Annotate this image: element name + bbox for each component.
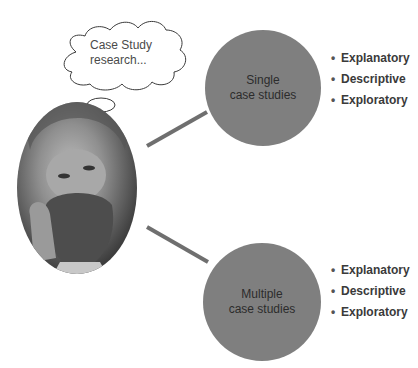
- node-multiple-line1: Multiple: [229, 287, 296, 302]
- bullet-text: Explanatory: [341, 263, 410, 277]
- thought-line-1: Case Study: [90, 38, 180, 53]
- multiple-bullet-list: •Explanatory •Descriptive •Exploratory: [331, 262, 410, 325]
- bullet-icon: •: [331, 304, 341, 320]
- portrait-image: [17, 102, 137, 280]
- thought-bubble-text: Case Study research...: [90, 38, 180, 68]
- list-item: •Exploratory: [331, 304, 410, 325]
- node-multiple-line2: case studies: [229, 302, 296, 317]
- single-bullet-list: •Explanatory •Descriptive •Exploratory: [331, 50, 410, 113]
- bullet-text: Exploratory: [341, 305, 408, 319]
- bullet-text: Exploratory: [341, 93, 408, 107]
- bullet-icon: •: [331, 262, 341, 278]
- bullet-text: Explanatory: [341, 51, 410, 65]
- connector-multiple: [147, 227, 208, 262]
- list-item: •Descriptive: [331, 71, 410, 92]
- bullet-text: Descriptive: [341, 72, 406, 86]
- bullet-icon: •: [331, 71, 341, 87]
- bullet-icon: •: [331, 92, 341, 108]
- list-item: •Descriptive: [331, 283, 410, 304]
- list-item: •Explanatory: [331, 50, 410, 71]
- node-single-line1: Single: [230, 73, 297, 88]
- node-single-case-studies: Single case studies: [205, 30, 321, 146]
- list-item: •Explanatory: [331, 262, 410, 283]
- bullet-text: Descriptive: [341, 284, 406, 298]
- list-item: •Exploratory: [331, 92, 410, 113]
- node-single-line2: case studies: [230, 88, 297, 103]
- thought-line-2: research...: [90, 53, 180, 68]
- diagram: Case Study research... Single case studi…: [0, 0, 418, 368]
- bullet-icon: •: [331, 283, 341, 299]
- connector-single: [147, 112, 207, 146]
- bullet-icon: •: [331, 50, 341, 66]
- node-multiple-case-studies: Multiple case studies: [203, 243, 321, 361]
